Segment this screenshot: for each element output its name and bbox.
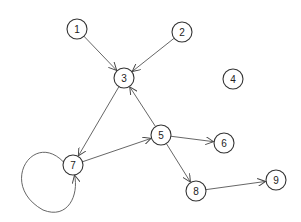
node-layer: 123456789	[63, 19, 286, 201]
node-label: 7	[70, 160, 76, 171]
node-6[interactable]: 6	[214, 133, 234, 153]
node-9[interactable]: 9	[266, 170, 286, 190]
edge-8-9	[206, 181, 266, 189]
edge-2-3	[132, 38, 174, 71]
node-7[interactable]: 7	[63, 155, 83, 175]
edge-5-8	[166, 143, 190, 182]
node-5[interactable]: 5	[151, 125, 171, 145]
node-3[interactable]: 3	[114, 68, 134, 88]
node-label: 5	[158, 130, 164, 141]
node-label: 2	[179, 27, 185, 38]
node-label: 9	[273, 175, 279, 186]
edge-1-3	[84, 36, 117, 70]
node-label: 8	[193, 186, 199, 197]
node-4[interactable]: 4	[223, 69, 243, 89]
edge-5-6	[171, 136, 214, 141]
node-2[interactable]: 2	[172, 22, 192, 42]
edge-3-7	[78, 87, 119, 156]
node-label: 3	[121, 73, 127, 84]
edge-layer	[22, 36, 266, 212]
edge-5-3	[130, 87, 156, 127]
graph-canvas: 123456789	[0, 0, 301, 222]
node-label: 6	[221, 138, 227, 149]
node-label: 1	[74, 24, 80, 35]
node-label: 4	[230, 74, 236, 85]
node-1[interactable]: 1	[67, 19, 87, 39]
edge-7-5	[82, 138, 151, 161]
node-8[interactable]: 8	[186, 181, 206, 201]
